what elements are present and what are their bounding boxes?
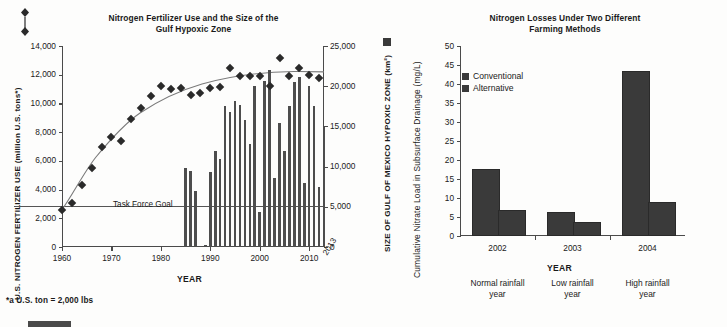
left-chart-x-tick: 2000 (248, 253, 272, 263)
left-chart-plot-area (62, 46, 324, 247)
right-chart-category-sublabel: High rainfallyear (606, 278, 690, 300)
sublabel-line: Low rainfall (531, 278, 615, 289)
hypoxic-zone-bar (318, 187, 321, 247)
left-chart-y-tick: 0 (51, 242, 56, 252)
hypoxic-zone-bar (313, 106, 316, 247)
hypoxic-zone-bar (219, 159, 222, 247)
task-force-goal-label: Task Force Goal (113, 200, 173, 209)
left-chart-y2-tickmark (324, 167, 328, 168)
left-chart-x-tickmark (260, 247, 261, 251)
figure-footnote: *a U.S. ton = 2,000 lbs (6, 296, 93, 305)
right-chart-panel: Nitrogen Losses Under Two Different Farm… (400, 0, 727, 327)
left-chart-y-tickmark (59, 75, 63, 76)
hypoxic-zone-bar (194, 191, 197, 247)
left-chart-y-tick: 2,000 (35, 213, 56, 223)
right-chart-y-tick: 20 (434, 155, 454, 165)
left-chart-title: Nitrogen Fertilizer Use and the Size of … (66, 13, 321, 35)
left-chart-y-tickmark (59, 218, 63, 219)
right-chart-x-tickmark (535, 236, 536, 240)
hypoxic-zone-bar (268, 70, 271, 247)
left-chart-y-tick: 4,000 (35, 184, 56, 194)
left-chart-y2-tick: 5,000 (330, 201, 351, 211)
nitrate-load-bar (547, 212, 575, 236)
legend-label-alternative: Alternative (473, 83, 514, 93)
left-chart-y-tickmark (59, 190, 63, 191)
left-chart-x-tickmark (62, 247, 63, 251)
right-chart-title-line2: Farming Methods (440, 24, 690, 35)
square-marker-icon (383, 38, 391, 46)
hypoxic-zone-bar (263, 81, 266, 247)
right-chart-x-tick: 2003 (548, 243, 598, 253)
hypoxic-zone-bar (214, 151, 217, 247)
sublabel-line: High rainfall (606, 278, 690, 289)
right-chart-legend: Conventional Alternative (462, 70, 523, 94)
right-chart-title: Nitrogen Losses Under Two Different Farm… (440, 13, 690, 35)
right-chart-x-tick: 2004 (623, 243, 673, 253)
sublabel-line: year (456, 289, 540, 300)
left-chart-y2-tick: 20,000 (330, 81, 355, 91)
hypoxic-zone-bar (204, 245, 207, 247)
hypoxic-zone-bar (253, 86, 256, 247)
nitrate-load-bar (622, 71, 650, 236)
hypoxic-zone-bar (224, 106, 227, 248)
right-chart-x-tickmark (610, 236, 611, 240)
nitrate-load-bar (573, 222, 601, 236)
left-chart-title-line2: Gulf Hypoxic Zone (66, 24, 321, 35)
left-chart-y2-tick: 25,000 (330, 41, 355, 51)
left-chart-y-tickmark (59, 46, 63, 47)
left-chart-panel: Nitrogen Fertilizer Use and the Size of … (0, 0, 400, 327)
right-chart-y-tick: 10 (434, 193, 454, 203)
left-chart-y-tick: 12,000 (31, 69, 56, 79)
left-chart-x-tickmark (210, 247, 211, 251)
sublabel-line: Normal rainfall (456, 278, 540, 289)
left-chart-x-tickmark (161, 247, 162, 251)
right-chart-y-tickmark (457, 179, 461, 180)
hypoxic-zone-bar (298, 77, 301, 247)
right-chart-y-tickmark (457, 46, 461, 47)
right-chart-x-tick: 2002 (473, 243, 523, 253)
hypoxic-zone-bar (308, 86, 311, 247)
nitrate-load-bar (498, 210, 526, 236)
left-chart-title-line1: Nitrogen Fertilizer Use and the Size of … (66, 13, 321, 24)
right-chart-y-tick: 45 (434, 60, 454, 70)
left-chart-x-tick: 2010 (297, 253, 321, 263)
right-chart-y-tick: 5 (434, 212, 454, 222)
hypoxic-zone-bar (323, 126, 326, 247)
right-chart-y-axis-label: Cumulative Nitrate Load in Subsurface Dr… (412, 61, 422, 278)
right-chart-y-tick: 0 (434, 231, 454, 241)
left-chart-x-tick: 1980 (149, 253, 173, 263)
right-chart-x-axis-label: YEAR (547, 263, 572, 273)
right-chart-title-line1: Nitrogen Losses Under Two Different (440, 13, 690, 24)
legend-swatch-alternative (462, 85, 469, 92)
left-chart-y-tickmark (59, 132, 63, 133)
left-chart-x-tick: 1960 (50, 253, 74, 263)
left-chart-y-tick: 10,000 (31, 98, 56, 108)
right-chart-y-tick: 50 (434, 41, 454, 51)
figure-canvas: Nitrogen Fertilizer Use and the Size of … (0, 0, 727, 327)
left-chart-y-tickmark (59, 161, 63, 162)
hypoxic-zone-bar (189, 171, 192, 247)
nitrate-load-bar (648, 202, 676, 236)
hypoxic-zone-bar (283, 151, 286, 247)
hypoxic-zone-bar (258, 212, 261, 247)
left-chart-y2-tick: 10,000 (330, 161, 355, 171)
right-chart-y-tickmark (457, 122, 461, 123)
hypoxic-zone-bar (293, 82, 296, 247)
right-chart-y-tick: 30 (434, 117, 454, 127)
hypoxic-zone-bar (199, 246, 202, 247)
right-chart-y-tickmark (457, 160, 461, 161)
cropped-legend-swatch (28, 321, 71, 327)
right-chart-category-sublabel: Normal rainfallyear (456, 278, 540, 300)
left-chart-y-tick: 6,000 (35, 155, 56, 165)
right-chart-y-tickmark (457, 141, 461, 142)
right-chart-y-tick: 35 (434, 98, 454, 108)
legend-label-conventional: Conventional (473, 71, 523, 81)
left-chart-y-tick: 14,000 (31, 41, 56, 51)
right-chart-y-tickmark (457, 198, 461, 199)
left-chart-y2-tickmark (324, 126, 328, 127)
right-chart-y-tickmark (457, 84, 461, 85)
legend-item-conventional: Conventional (462, 70, 523, 82)
left-chart-x-tick: 1990 (198, 253, 222, 263)
left-chart-x-tickmark (111, 247, 112, 251)
left-chart-y2-tickmark (324, 46, 328, 47)
